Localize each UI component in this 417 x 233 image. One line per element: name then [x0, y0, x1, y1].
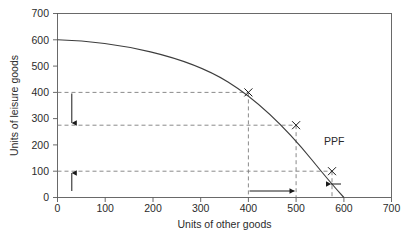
y-tick-label-0: 0	[43, 191, 49, 203]
chart-background	[0, 0, 417, 233]
y-tick-label-200: 200	[31, 139, 49, 151]
x-tick-label-600: 600	[335, 202, 353, 214]
y-axis-title: Units of leisure goods	[8, 55, 20, 156]
x-tick-label-0: 0	[55, 202, 61, 214]
y-tick-label-300: 300	[31, 112, 49, 124]
chart-canvas: 700 600 500 400 300 200 100 0 0 100 20	[0, 0, 417, 233]
x-tick-label-300: 300	[192, 202, 210, 214]
x-tick-label-200: 200	[144, 202, 162, 214]
y-tick-label-600: 600	[31, 34, 49, 46]
y-tick-label-500: 500	[31, 60, 49, 72]
ppf-chart: 700 600 500 400 300 200 100 0 0 100 20	[0, 0, 417, 233]
x-tick-label-500: 500	[287, 202, 305, 214]
x-tick-label-400: 400	[240, 202, 258, 214]
ppf-curve-label: PPF	[324, 135, 344, 147]
x-tick-label-100: 100	[96, 202, 114, 214]
x-axis-title: Units of other goods	[178, 218, 272, 230]
x-tick-label-700: 700	[383, 202, 401, 214]
y-tick-label-700: 700	[31, 7, 49, 19]
y-tick-label-100: 100	[31, 165, 49, 177]
y-tick-label-400: 400	[31, 86, 49, 98]
